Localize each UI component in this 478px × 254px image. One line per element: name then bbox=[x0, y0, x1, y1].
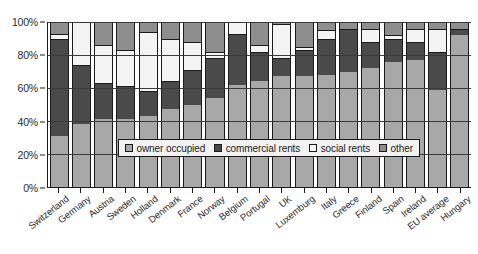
bar-group bbox=[360, 22, 382, 187]
bar-segment bbox=[162, 39, 179, 82]
bar-segment bbox=[117, 22, 134, 50]
bar-segment bbox=[206, 22, 223, 52]
bar-segment bbox=[95, 83, 112, 119]
bar-group bbox=[427, 22, 449, 187]
bar-segment bbox=[162, 22, 179, 39]
y-tick-mark bbox=[40, 121, 45, 122]
bar-stack bbox=[228, 22, 247, 187]
bar-segment bbox=[273, 58, 290, 76]
bar-segment bbox=[296, 50, 313, 76]
bar-segment bbox=[451, 29, 468, 36]
legend-item: commercial rents bbox=[214, 143, 300, 154]
bar-segment bbox=[229, 34, 246, 85]
bar-stack bbox=[339, 22, 358, 187]
legend-label: commercial rents bbox=[226, 143, 301, 154]
y-axis: 0%20%40%60%80%100% bbox=[0, 22, 45, 188]
bar-group bbox=[404, 22, 426, 187]
bar-segment bbox=[206, 52, 223, 59]
bar-segment bbox=[95, 119, 112, 187]
y-tick-mark bbox=[40, 188, 45, 189]
bar-segment bbox=[206, 58, 223, 98]
bar-group bbox=[382, 22, 404, 187]
bar-stack bbox=[450, 22, 469, 187]
y-tick-label: 20% bbox=[18, 149, 38, 161]
bar-segment bbox=[184, 22, 201, 42]
bar-group bbox=[248, 22, 270, 187]
y-tick-label: 60% bbox=[18, 82, 38, 94]
bar-segment bbox=[95, 22, 112, 45]
legend-item: owner occupied bbox=[125, 143, 205, 154]
bar-segment bbox=[362, 68, 379, 187]
bar-group bbox=[293, 22, 315, 187]
bar-segment bbox=[73, 124, 90, 187]
bar-group bbox=[337, 22, 359, 187]
legend-swatch-icon bbox=[214, 144, 222, 152]
bar-group bbox=[48, 22, 70, 187]
bar-stack bbox=[428, 22, 447, 187]
y-tick-label: 0% bbox=[23, 182, 38, 194]
chart-legend: owner occupiedcommercial rentssocial ren… bbox=[118, 139, 420, 157]
bar-group bbox=[159, 22, 181, 187]
bar-group bbox=[449, 22, 471, 187]
bar-stack bbox=[183, 22, 202, 187]
bar-segment bbox=[385, 62, 402, 187]
bar-stack bbox=[205, 22, 224, 187]
legend-label: owner occupied bbox=[137, 143, 206, 154]
bar-segment bbox=[251, 81, 268, 187]
bar-segment bbox=[429, 90, 446, 187]
bar-segment bbox=[229, 85, 246, 187]
bar-segment bbox=[251, 22, 268, 45]
bar-segment bbox=[95, 45, 112, 83]
legend-label: other bbox=[391, 143, 413, 154]
bar-segment bbox=[251, 52, 268, 82]
y-tick-mark bbox=[40, 22, 45, 23]
bar-segment bbox=[273, 76, 290, 187]
bar-segment bbox=[407, 42, 424, 60]
bar-segment bbox=[362, 29, 379, 42]
stacked-bar-chart: 0%20%40%60%80%100% SwitzerlandGermanyAus… bbox=[0, 0, 478, 254]
bar-group bbox=[137, 22, 159, 187]
legend-item: social rents bbox=[309, 143, 370, 154]
bar-segment bbox=[296, 22, 313, 47]
bar-group bbox=[271, 22, 293, 187]
bar-segment bbox=[407, 22, 424, 29]
bar-segment bbox=[385, 22, 402, 35]
bar-stack bbox=[161, 22, 180, 187]
bar-segment bbox=[429, 29, 446, 52]
bar-segment bbox=[451, 22, 468, 29]
bar-segment bbox=[296, 76, 313, 187]
bar-stack bbox=[50, 22, 69, 187]
bars-layer bbox=[48, 22, 471, 187]
bar-stack bbox=[384, 22, 403, 187]
bar-stack bbox=[406, 22, 425, 187]
bar-group bbox=[315, 22, 337, 187]
bar-group bbox=[182, 22, 204, 187]
bar-group bbox=[226, 22, 248, 187]
bar-segment bbox=[162, 81, 179, 109]
bar-segment bbox=[340, 29, 357, 72]
bar-segment bbox=[73, 22, 90, 65]
bar-stack bbox=[295, 22, 314, 187]
y-tick-label: 80% bbox=[18, 49, 38, 61]
bar-segment bbox=[184, 42, 201, 70]
bar-segment bbox=[362, 42, 379, 68]
legend-swatch-icon bbox=[309, 144, 317, 152]
bar-segment bbox=[117, 86, 134, 119]
bar-stack bbox=[139, 22, 158, 187]
bar-group bbox=[70, 22, 92, 187]
legend-swatch-icon bbox=[125, 144, 133, 152]
bar-segment bbox=[251, 45, 268, 52]
legend-label: social rents bbox=[321, 143, 370, 154]
legend-swatch-icon bbox=[379, 144, 387, 152]
x-axis-labels: SwitzerlandGermanyAustriaSwedenHollandDe… bbox=[47, 193, 471, 254]
bar-segment bbox=[140, 32, 157, 91]
plot-area bbox=[47, 22, 471, 188]
bar-segment bbox=[318, 39, 335, 75]
bar-group bbox=[204, 22, 226, 187]
bar-stack bbox=[361, 22, 380, 187]
bar-segment bbox=[273, 24, 290, 59]
bar-stack bbox=[72, 22, 91, 187]
bar-segment bbox=[318, 30, 335, 38]
y-tick-mark bbox=[40, 154, 45, 155]
bar-segment bbox=[340, 72, 357, 188]
